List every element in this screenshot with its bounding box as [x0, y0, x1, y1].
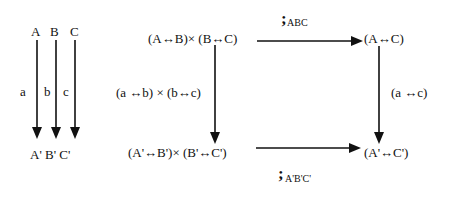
label-B: B	[50, 24, 59, 39]
label-primes: A' B' C'	[30, 147, 70, 162]
bottom-arrow-subscript: A'B'C'	[285, 173, 311, 184]
arrowhead-bottom-icon	[349, 143, 361, 153]
commutative-square: (A↔B)× (B↔C) (A↔C) (A'↔B')× (B'↔C') (A'↔…	[116, 9, 427, 184]
right-arrow-label: (a ↔c)	[391, 85, 427, 100]
label-a: a	[20, 84, 26, 99]
label-A: A	[31, 24, 41, 39]
node-bottom-left: (A'↔B')× (B'↔C')	[128, 145, 227, 160]
top-arrow-subscript: ABC	[287, 17, 308, 28]
node-top-left: (A↔B)× (B↔C)	[148, 31, 237, 46]
node-bottom-right: (A'↔C')	[364, 145, 408, 160]
arrowhead-c-icon	[70, 127, 80, 139]
label-b: b	[44, 84, 51, 99]
arrowhead-left-vertical-icon	[210, 132, 220, 144]
arrowhead-top-icon	[351, 36, 363, 46]
arrowhead-right-vertical-icon	[374, 132, 384, 144]
commutative-diagram: A B C a b c A' B' C' (A↔B)× (B↔C) (A↔C) …	[0, 0, 451, 199]
label-C: C	[70, 24, 79, 39]
arrowhead-a-icon	[32, 127, 42, 139]
label-c: c	[63, 84, 69, 99]
bottom-arrow-semicolon: ;	[278, 164, 284, 183]
left-arrows-diagram: A B C a b c A' B' C'	[20, 24, 80, 162]
node-top-right: (A↔C)	[364, 31, 404, 46]
top-arrow-semicolon: ;	[281, 9, 287, 28]
left-arrow-label: (a ↔b) × (b↔c)	[116, 85, 201, 100]
arrowhead-b-icon	[51, 127, 61, 139]
